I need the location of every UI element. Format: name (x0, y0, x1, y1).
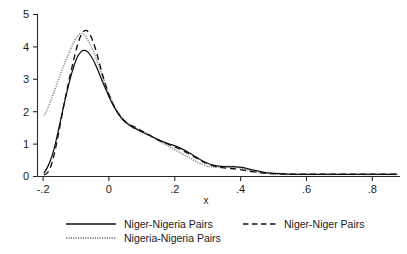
x-tick-label-5: .8 (368, 183, 377, 195)
legend-label-niger-niger: Niger-Niger Pairs (284, 218, 365, 230)
series-line-niger-niger (44, 30, 397, 175)
x-tick-label-0: -.2 (37, 183, 50, 195)
x-tick-label-4: .6 (302, 183, 311, 195)
y-tick-label-2: 2 (23, 106, 29, 118)
legend-label-niger-nigeria: Niger-Nigeria Pairs (124, 218, 213, 230)
x-tick-group (43, 177, 372, 182)
x-tick-label-3: .4 (236, 183, 245, 195)
legend: Niger-Nigeria Pairs Niger-Niger Pairs Ni… (66, 218, 365, 244)
x-tick-label-2: .2 (170, 183, 179, 195)
y-tick-label-5: 5 (23, 8, 29, 20)
y-tick-label-0: 0 (23, 170, 29, 182)
y-tick-label-4: 4 (23, 41, 29, 53)
x-tick-label-1: 0 (106, 183, 112, 195)
x-axis-title: x (204, 195, 209, 206)
y-tick-label-1: 1 (23, 138, 29, 150)
x-tick-labels: -.2 0 .2 .4 .6 .8 (37, 183, 377, 195)
legend-label-nigeria-nigeria: Nigeria-Nigeria Pairs (124, 232, 221, 244)
y-tick-label-3: 3 (23, 73, 29, 85)
y-tick-group (33, 15, 38, 177)
density-plot-svg: 0 1 2 3 4 5 -.2 0 .2 .4 .6 .8 x (0, 0, 407, 254)
kernel-density-figure: 0 1 2 3 4 5 -.2 0 .2 .4 .6 .8 x (0, 0, 407, 254)
y-tick-labels: 0 1 2 3 4 5 (23, 8, 29, 182)
series-line-niger-nigeria (44, 50, 397, 174)
